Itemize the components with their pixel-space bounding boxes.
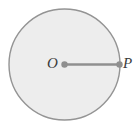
circle-diagram-canvas bbox=[0, 0, 136, 130]
circle-diagram: O P bbox=[0, 0, 136, 130]
perimeter-point-dot bbox=[116, 61, 122, 67]
perimeter-point-label: P bbox=[123, 56, 132, 71]
center-point-dot bbox=[61, 61, 67, 67]
center-point-label: O bbox=[47, 56, 58, 71]
